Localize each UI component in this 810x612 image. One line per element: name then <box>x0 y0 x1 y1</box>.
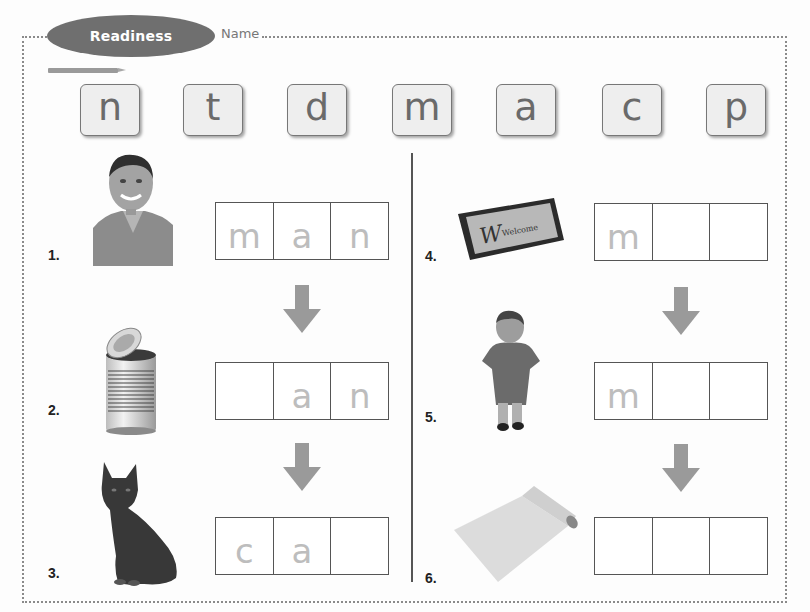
readiness-badge: Readiness <box>47 15 215 57</box>
down-arrow-icon <box>661 287 701 337</box>
boy-photo <box>478 309 544 433</box>
can-photo <box>104 323 158 435</box>
pencil-tip-icon <box>118 68 126 72</box>
badge-label: Readiness <box>90 28 172 44</box>
letter-cell[interactable] <box>710 204 767 260</box>
word-box-1: m a n <box>215 202 389 260</box>
exercise-number-4: 4. <box>425 248 437 264</box>
name-label: Name <box>221 26 259 41</box>
word-box-5: m <box>594 362 768 420</box>
border-top-left-segment <box>22 36 50 38</box>
letter-cell[interactable]: n <box>331 363 388 419</box>
letter-cell[interactable]: n <box>331 203 388 259</box>
letter-cell[interactable]: a <box>274 518 332 574</box>
letter-cell[interactable] <box>653 204 711 260</box>
down-arrow-icon <box>661 444 701 494</box>
letter-cell[interactable] <box>595 518 653 574</box>
welcome-mat-photo: W Welcome <box>454 196 566 262</box>
cat-photo <box>96 460 180 586</box>
letter-tile-d[interactable]: d <box>287 84 347 136</box>
name-field-line[interactable] <box>262 36 787 38</box>
letter-cell[interactable]: a <box>274 363 332 419</box>
man-photo <box>93 153 173 266</box>
letter-tile-m[interactable]: m <box>392 84 452 136</box>
letter-cell[interactable]: m <box>216 203 274 259</box>
exercise-number-1: 1. <box>48 247 60 263</box>
exercise-number-3: 3. <box>48 565 60 581</box>
word-box-3: c a <box>215 517 389 575</box>
exercise-number-5: 5. <box>425 409 437 425</box>
letter-tile-p[interactable]: p <box>706 84 766 136</box>
letter-tile-t[interactable]: t <box>183 84 243 136</box>
letter-tile-n[interactable]: n <box>80 84 140 136</box>
letter-cell[interactable]: m <box>595 204 653 260</box>
letter-cell[interactable] <box>710 363 767 419</box>
word-box-4: m <box>594 203 768 261</box>
letter-cell[interactable] <box>710 518 767 574</box>
column-divider <box>411 153 413 582</box>
word-box-2: a n <box>215 362 389 420</box>
mat-roll-photo <box>452 482 580 584</box>
letter-tile-c[interactable]: c <box>602 84 662 136</box>
down-arrow-icon <box>282 443 322 493</box>
letter-cell[interactable] <box>653 363 711 419</box>
down-arrow-icon <box>282 285 322 335</box>
letter-cell[interactable] <box>216 363 274 419</box>
letter-cell[interactable]: c <box>216 518 274 574</box>
word-box-6 <box>594 517 768 575</box>
letter-cell[interactable] <box>653 518 711 574</box>
letter-cell[interactable]: m <box>595 363 653 419</box>
exercise-number-6: 6. <box>425 570 437 586</box>
exercise-number-2: 2. <box>48 402 60 418</box>
pencil-icon <box>48 68 118 73</box>
letter-cell[interactable] <box>331 518 388 574</box>
letter-cell[interactable]: a <box>274 203 332 259</box>
letter-tile-a[interactable]: a <box>496 84 556 136</box>
